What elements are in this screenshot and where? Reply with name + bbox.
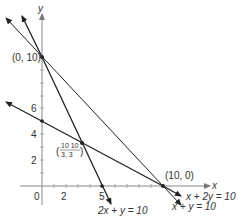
point-label-0-10: (0, 10) [12,52,41,63]
line-x-plus-y [6,18,163,186]
point-label-10-0: (10, 0) [165,170,194,181]
paren-right: ) [80,146,83,157]
x-axis-label: x [211,180,218,191]
line-2x-plus-y-ext [42,57,111,204]
y-axis-label: y [37,3,44,14]
point-10-0 [161,184,165,188]
line-label-x-plus-y: x + y = 10 [171,201,216,212]
y-tick-4: 4 [31,129,37,140]
point-5-0 [100,184,104,188]
paren-left: ( [56,146,60,157]
x-tick-0: 0 [34,191,40,202]
point-label-intersection-num: 10 10 [61,142,79,149]
y-tick-2: 2 [31,155,37,166]
line-x-plus-2y-ext [163,186,181,196]
point-label-intersection-den: 3, 3 [61,151,73,158]
graph: y x 0 2 5 2 4 6 (0, 10) (10, 0) 10 10 3,… [0,0,238,221]
x-tick-5: 5 [99,191,105,202]
point-0-5 [40,119,44,123]
line-x-plus-2y [6,102,163,186]
point-intersection [80,141,84,145]
x-tick-2: 2 [61,191,67,202]
y-tick-6: 6 [31,103,37,114]
line-2x-plus-y [22,16,42,57]
line-label-2x-plus-y: 2x + y = 10 [97,205,148,216]
